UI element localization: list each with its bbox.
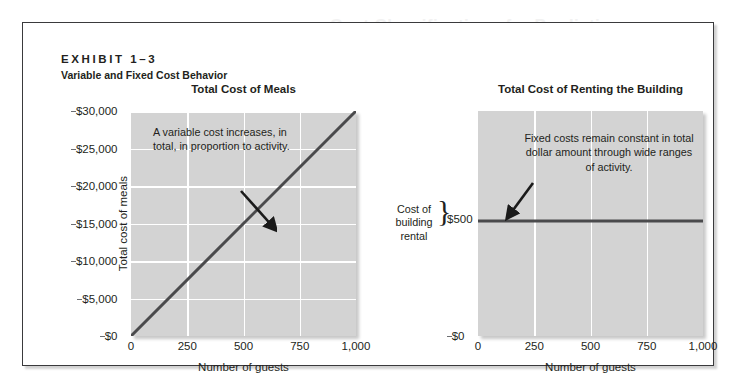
ytick-label: $30,000 bbox=[76, 105, 118, 117]
annotation-variable-cost: A variable cost increases, in total, in … bbox=[153, 125, 313, 154]
xtick-label: 1,000 bbox=[689, 340, 718, 352]
exhibit-label: EXHIBIT 1–3 bbox=[61, 53, 157, 65]
ytick-label: $10,000 bbox=[76, 255, 118, 267]
xtick-label: 250 bbox=[178, 340, 197, 352]
brace-value: $500 bbox=[447, 213, 473, 225]
annotation-fixed-cost: Fixed costs remain constant in total dol… bbox=[521, 131, 697, 174]
xtick-label: 1,000 bbox=[342, 340, 371, 352]
xtick-label: 500 bbox=[234, 340, 253, 352]
xtick-label: 0 bbox=[475, 340, 481, 352]
ytick-label: $25,000 bbox=[76, 143, 118, 155]
brace-label: Cost of building rental bbox=[391, 203, 437, 243]
ytick-label: $0 bbox=[105, 330, 118, 342]
xtick-label: 0 bbox=[128, 340, 134, 352]
xaxis-label-meals: Number of guests bbox=[131, 361, 356, 373]
exhibit-panel: EXHIBIT 1–3 Variable and Fixed Cost Beha… bbox=[22, 22, 714, 366]
xtick-label: 750 bbox=[290, 340, 309, 352]
yaxis-label-meals: Total cost of meals bbox=[117, 111, 131, 336]
xtick-label: 500 bbox=[581, 340, 600, 352]
chart-title-rent: Total Cost of Renting the Building bbox=[478, 83, 703, 95]
xaxis-label-rent: Number of guests bbox=[478, 361, 703, 373]
chart-title-meals: Total Cost of Meals bbox=[131, 83, 356, 95]
ytick-label: $20,000 bbox=[76, 180, 118, 192]
ytick-label: $5,000 bbox=[82, 293, 117, 305]
exhibit-subtitle: Variable and Fixed Cost Behavior bbox=[61, 69, 227, 81]
xtick-label: 250 bbox=[525, 340, 544, 352]
cost-of-building-rental-callout: Cost of building rental } $500 bbox=[391, 201, 477, 245]
ytick-label: $15,000 bbox=[76, 218, 118, 230]
xtick-label: 750 bbox=[637, 340, 656, 352]
ytick-label: $0 bbox=[452, 330, 465, 342]
